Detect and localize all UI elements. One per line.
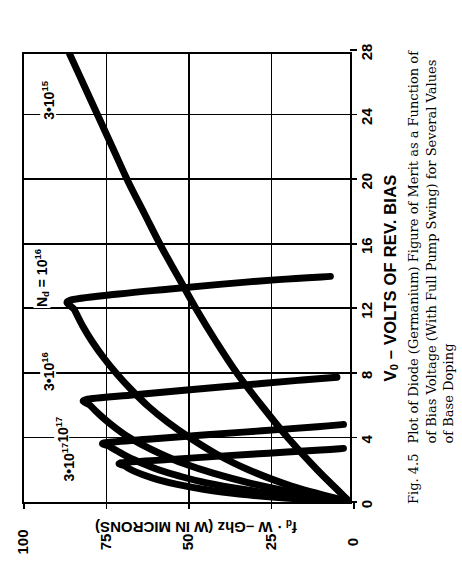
x-tick-label: 12 — [358, 302, 375, 319]
figure-number: Fig. 4.5 — [405, 454, 458, 504]
y-tick — [188, 502, 190, 509]
curve-label-3e15: 3•1015 — [41, 80, 57, 121]
caption-line: Plot of Diode (Germanium) Figure of Meri… — [405, 51, 423, 444]
x-tick — [350, 49, 357, 51]
y-tick-label: 75 — [96, 534, 113, 551]
curve-label-1e16: Nd = 1016 — [33, 248, 50, 308]
x-tick — [350, 114, 357, 116]
y-tick-label: 50 — [179, 534, 196, 551]
x-tick — [350, 307, 357, 309]
y-tick-label: 25 — [261, 534, 278, 551]
y-gridline — [188, 54, 190, 502]
x-tick — [350, 437, 357, 439]
y-tick-label: 0 — [344, 538, 361, 546]
x-tick — [350, 178, 357, 180]
x-gridline — [24, 243, 350, 245]
caption-line: of Bias Voltage (With Full Pump Swing) f… — [423, 51, 441, 444]
x-axis-title: V0 – VOLTS OF REV. BIAS — [381, 52, 400, 504]
y-tick — [271, 502, 273, 509]
curve-label-3e16: 3•1016 — [41, 351, 57, 392]
plot-area — [22, 52, 352, 504]
x-tick-label: 4 — [358, 435, 375, 443]
y-tick — [353, 502, 355, 509]
x-tick-label: 28 — [358, 44, 375, 61]
x-gridline — [24, 372, 350, 374]
figure-container: 0481216202428 0255075100 3•1015Nd = 1016… — [0, 0, 462, 582]
x-gridline — [24, 437, 350, 439]
curve-label-3e17: 3•1017 — [60, 442, 76, 483]
x-tick-label: 20 — [358, 173, 375, 190]
figure-caption: Fig. 4.5 Plot of Diode (Germanium) Figur… — [405, 44, 458, 504]
x-tick — [350, 372, 357, 374]
x-tick-label: 8 — [358, 371, 375, 379]
rotated-page-stage: 0481216202428 0255075100 3•1015Nd = 1016… — [0, 0, 462, 582]
x-gridline — [24, 308, 350, 310]
x-tick-label: 16 — [358, 237, 375, 254]
y-axis-title: fd · W –Ghz (W IN MICRONS) — [0, 518, 411, 536]
y-gridline — [271, 54, 273, 502]
x-tick-label: 0 — [358, 500, 375, 508]
curve-layer — [24, 54, 350, 502]
x-gridline — [24, 114, 350, 116]
x-tick-label: 24 — [358, 108, 375, 125]
y-tick — [23, 502, 25, 509]
curve-label-1e17: 1017 — [54, 416, 70, 444]
x-gridline — [24, 178, 350, 180]
x-tick — [350, 243, 357, 245]
y-gridline — [106, 54, 108, 502]
caption-line: of Base Doping — [440, 51, 458, 444]
figure-caption-body: Plot of Diode (Germanium) Figure of Meri… — [405, 51, 458, 444]
y-tick — [106, 502, 108, 509]
